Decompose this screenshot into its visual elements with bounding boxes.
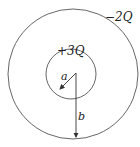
inner-charge-label: +3Q bbox=[57, 44, 85, 58]
outer-charge-label: −2Q bbox=[105, 10, 133, 24]
outer-shell-circle bbox=[8, 9, 138, 139]
radius-a-label: a bbox=[61, 70, 68, 83]
diagram-canvas: −2Q +3Q a b bbox=[0, 0, 140, 147]
radius-b-label: b bbox=[78, 110, 85, 123]
